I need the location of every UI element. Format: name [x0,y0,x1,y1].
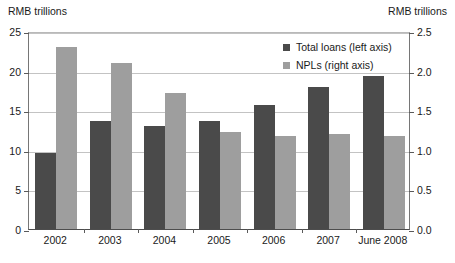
bar-total-loans [254,105,275,229]
left-axis-unit-caption: RMB trillions [8,5,67,17]
legend-item: NPLs (right axis) [283,59,392,71]
x-axis-category-label: 2005 [192,234,247,246]
left-axis-tick-label: 20 [9,67,21,78]
chart-legend: Total loans (left axis)NPLs (right axis) [283,41,392,71]
bar-npls [165,93,186,229]
legend-item-label: NPLs (right axis) [296,59,374,71]
bar-total-loans [363,76,384,229]
bar-total-loans [308,87,329,229]
x-axis-category-label: 2006 [246,234,301,246]
bar-npls [56,47,77,229]
bar-group [138,33,193,229]
right-axis-tick-label: 2.0 [417,67,432,78]
x-axis-category-label: June 2008 [355,234,410,246]
x-axis-category-label: 2004 [137,234,192,246]
bar-npls [384,136,405,229]
bar-total-loans [144,126,165,229]
right-axis-tick-label: 1.0 [417,146,432,157]
bar-npls [275,136,296,229]
right-axis-tick-label: 2.5 [417,27,432,38]
right-axis-tick-label: 0.0 [417,225,432,236]
left-axis-tick-label: 10 [9,146,21,157]
left-axis-tick-label: 5 [15,185,21,196]
bar-npls [220,132,241,229]
x-axis-category-label: 2002 [28,234,83,246]
x-axis-tick [138,229,139,233]
left-axis-tick-label: 25 [9,27,21,38]
bar-group [29,33,84,229]
chart-figure: RMB trillions RMB trillions 0510152025 0… [0,0,455,263]
bar-total-loans [90,121,111,230]
right-axis-tick-label: 0.5 [417,185,432,196]
right-axis-unit-caption: RMB trillions [388,5,447,17]
left-axis-tick-label: 0 [15,225,21,236]
x-axis-tick [247,229,248,233]
right-axis-tick-label: 1.5 [417,106,432,117]
x-axis-tick [84,229,85,233]
bar-group [193,33,248,229]
bar-total-loans [199,121,220,230]
x-axis-category-label: 2003 [83,234,138,246]
dark-gray-swatch-icon [283,44,290,51]
bar-npls [111,63,132,229]
right-axis-tick [409,231,414,232]
legend-item: Total loans (left axis) [283,41,392,53]
bar-npls [329,134,350,229]
bar-group [84,33,139,229]
left-axis-tick-label: 15 [9,106,21,117]
left-axis-tick [24,231,29,232]
x-axis-tick [302,229,303,233]
bar-total-loans [35,153,56,229]
legend-item-label: Total loans (left axis) [296,41,392,53]
x-axis-tick [193,229,194,233]
x-axis-tick [356,229,357,233]
light-gray-swatch-icon [283,62,290,69]
x-axis-category-label: 2007 [301,234,356,246]
